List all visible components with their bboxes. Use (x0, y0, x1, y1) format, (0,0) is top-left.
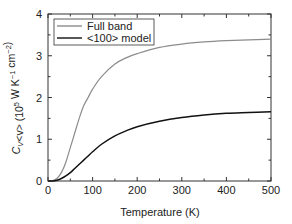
y-tick-label: 2 (36, 92, 42, 104)
x-tick-label: 200 (128, 184, 146, 196)
y-tick-label: 3 (36, 50, 42, 62)
series-line-1 (48, 112, 271, 181)
legend: Full band<100> model (54, 19, 154, 45)
y-axis-label: CV<v> (105 W K−1 cm−2) (1, 42, 25, 155)
chart: 010020030040050001234 Full band<100> mod… (0, 0, 292, 224)
x-tick-label: 500 (262, 184, 280, 196)
legend-label-1: <100> model (87, 32, 151, 44)
y-tick-label: 4 (36, 8, 42, 20)
x-tick-label: 100 (83, 184, 101, 196)
x-axis-label: Temperature (K) (120, 206, 199, 218)
y-tick-label: 0 (36, 175, 42, 187)
chart-svg: 010020030040050001234 Full band<100> mod… (0, 0, 292, 224)
x-tick-label: 300 (173, 184, 191, 196)
x-tick-label: 400 (217, 184, 235, 196)
y-tick-label: 1 (36, 133, 42, 145)
x-tick-label: 0 (45, 184, 51, 196)
plot-curves (48, 39, 271, 181)
legend-label-0: Full band (87, 20, 132, 32)
series-line-0 (48, 39, 271, 181)
